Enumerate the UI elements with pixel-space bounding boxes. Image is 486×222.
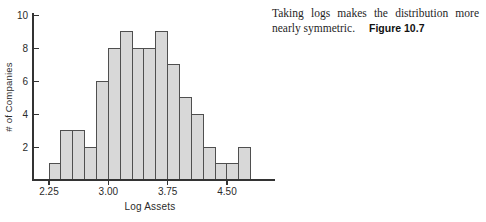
y-tick-label: 2 [22, 142, 28, 153]
caption-line-2: nearly symmetric.Figure 10.7 [272, 21, 479, 36]
y-tick-label: 10 [17, 10, 29, 21]
histogram-bar [227, 164, 239, 180]
figure-caption: Taking logs makes the distribution more … [272, 6, 479, 35]
y-tick-label: 6 [22, 76, 28, 87]
histogram-bar [85, 147, 97, 180]
caption-line-1: Taking logs makes the distribution more [272, 6, 479, 21]
x-tick-label: 3.00 [99, 186, 119, 197]
figure-number-label: Figure 10.7 [369, 22, 424, 34]
histogram-bar [203, 147, 215, 180]
histogram-bar [156, 32, 168, 180]
x-tick-label: 2.25 [39, 186, 59, 197]
x-tick-label: 4.50 [217, 186, 237, 197]
y-tick-label: 4 [22, 109, 28, 120]
y-axis-title: # of Companies [3, 51, 15, 143]
histogram-bar [180, 98, 192, 180]
figure-page: 2468102.253.003.754.50 # of Companies Lo… [0, 0, 486, 222]
histogram-bar [132, 48, 144, 180]
histogram-bar [144, 48, 156, 180]
histogram-bar [120, 32, 132, 180]
histogram-bar [73, 131, 85, 180]
histogram-bar [168, 65, 180, 180]
y-tick-label: 8 [22, 43, 28, 54]
histogram-bar [61, 131, 73, 180]
histogram-bar [215, 164, 227, 180]
histogram-bar [96, 81, 108, 180]
x-axis-title: Log Assets [90, 201, 210, 212]
histogram-bar [49, 164, 61, 180]
histogram-bar [108, 48, 120, 180]
histogram-bar [239, 147, 251, 180]
caption-line-2-text: nearly symmetric. [272, 22, 355, 34]
histogram-bar [191, 114, 203, 180]
x-tick-label: 3.75 [158, 186, 178, 197]
